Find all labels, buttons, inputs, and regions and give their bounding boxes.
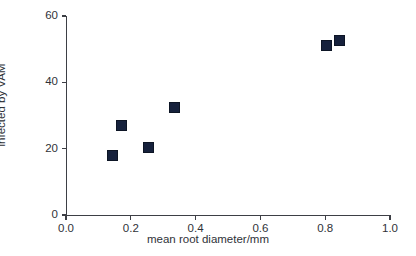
y-axis-title-line-2: infected by VAM	[0, 45, 8, 165]
x-tick-0.2	[130, 215, 131, 220]
x-tick-0.6	[260, 215, 261, 220]
x-axis-title: mean root diameter/mm	[0, 233, 416, 245]
data-point	[334, 35, 345, 46]
y-tick-label-40: 40	[24, 75, 58, 87]
y-tick-label-0: 0	[24, 208, 58, 220]
y-tick-60	[62, 15, 67, 16]
data-point	[116, 120, 127, 131]
y-tick-label-20: 20	[24, 142, 58, 154]
plot-area: 0204060 0.00.20.40.60.81.0	[66, 16, 390, 215]
scatter-chart-figure: 0204060 0.00.20.40.60.81.0 % root length…	[0, 0, 416, 256]
y-axis-title: % root length infected by VAM	[0, 45, 8, 165]
data-point	[107, 150, 118, 161]
y-axis-line	[66, 16, 67, 215]
x-tick-1.0	[389, 215, 390, 220]
y-tick-20	[62, 148, 67, 149]
x-tick-0.8	[325, 215, 326, 220]
y-tick-label-60: 60	[24, 9, 58, 21]
x-tick-0.0	[65, 215, 66, 220]
data-point	[143, 142, 154, 153]
data-point	[321, 40, 332, 51]
x-tick-0.4	[195, 215, 196, 220]
data-point	[169, 102, 180, 113]
x-axis-line	[66, 215, 390, 216]
y-tick-40	[62, 82, 67, 83]
